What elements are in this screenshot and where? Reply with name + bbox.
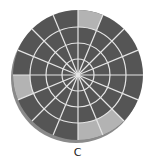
polar-grid-disc [0,0,155,164]
figure-label: C [0,146,155,159]
polar-grid-figure: C [0,0,155,164]
